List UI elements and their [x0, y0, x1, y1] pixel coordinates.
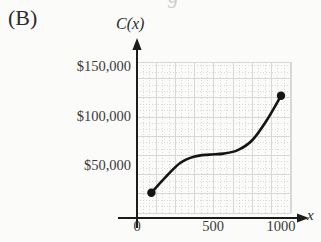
curve-endpoint-start: [147, 189, 155, 197]
curve-endpoint-end: [277, 92, 285, 100]
grid-major-lines: [137, 62, 291, 213]
plot-canvas: [0, 0, 321, 242]
figure-panel-b: g ____ _ (B) C(x) x $150,000$100,000$50,…: [0, 0, 321, 242]
